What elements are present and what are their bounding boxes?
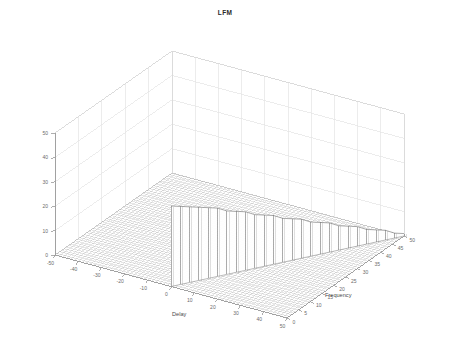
- plot-canvas: [0, 0, 450, 341]
- x-axis-tick-label: 30: [233, 310, 239, 316]
- z-axis-tick-label: 20: [42, 203, 48, 209]
- x-axis-tick-label: 0: [165, 291, 168, 297]
- z-axis-tick-label: 50: [42, 130, 48, 136]
- z-axis-tick-label: 40: [42, 154, 48, 160]
- y-axis-tick-label: 40: [386, 253, 392, 259]
- z-axis-tick-label: 10: [42, 228, 48, 234]
- y-axis-tick-label: 30: [363, 269, 369, 275]
- x-axis-tick-label: 50: [280, 323, 286, 329]
- y-axis-tick-label: 25: [351, 278, 357, 284]
- y-axis-tick-label: 45: [398, 245, 404, 251]
- x-axis-tick-label: -10: [140, 285, 147, 291]
- y-axis-title: Frequency: [325, 292, 351, 298]
- y-axis-tick-label: 35: [374, 261, 380, 267]
- x-axis-tick-label: -30: [93, 272, 100, 278]
- x-axis-tick-label: -40: [70, 266, 77, 272]
- x-axis-tick-label: -20: [116, 278, 123, 284]
- y-axis-tick-label: 10: [316, 302, 322, 308]
- y-axis-tick-label: 20: [339, 286, 345, 292]
- x-axis-tick-label: -50: [47, 260, 54, 266]
- matlab-figure-window: LFM 01020304050-50-40-30-20-100102030405…: [0, 0, 450, 341]
- x-axis-tick-label: 20: [210, 304, 216, 310]
- z-axis-tick-label: 0: [45, 252, 48, 258]
- x-axis-title: Delay: [172, 311, 186, 317]
- y-axis-tick-label: 5: [304, 310, 307, 316]
- z-axis-tick-label: 30: [42, 179, 48, 185]
- x-axis-tick-label: 10: [187, 297, 193, 303]
- y-axis-tick-label: 50: [410, 237, 416, 243]
- x-axis-tick-label: 40: [257, 316, 263, 322]
- y-axis-tick-label: 0: [293, 319, 296, 325]
